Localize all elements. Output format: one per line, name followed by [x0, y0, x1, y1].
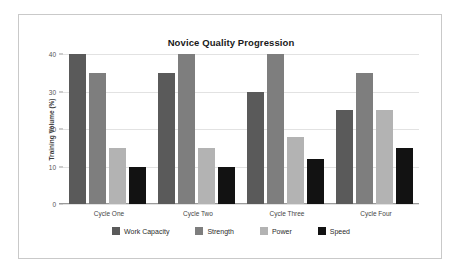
legend-swatch [318, 227, 326, 235]
x-tick-label: Cycle One [69, 210, 149, 217]
legend-swatch [260, 227, 268, 235]
y-tick-label: 20 [49, 126, 56, 133]
plot-area: 010203040 Cycle OneCycle TwoCycle ThreeC… [63, 54, 419, 204]
chart-title: Novice Quality Progression [19, 37, 443, 48]
y-tick-label: 0 [52, 201, 56, 208]
bar[interactable] [307, 159, 324, 204]
bar-group: Cycle Three [247, 54, 327, 204]
x-tick-label: Cycle Three [247, 210, 327, 217]
y-tick-mark [59, 166, 63, 167]
y-tick-mark [59, 129, 63, 130]
bar[interactable] [89, 73, 106, 204]
legend-item[interactable]: Speed [318, 227, 350, 235]
bar[interactable] [109, 148, 126, 204]
legend-swatch [195, 227, 203, 235]
legend-item[interactable]: Power [260, 227, 292, 235]
legend-label: Strength [207, 228, 233, 235]
legend-swatch [112, 227, 120, 235]
legend-label: Speed [330, 228, 350, 235]
y-tick-mark [59, 204, 63, 205]
chart-legend: Work CapacityStrengthPowerSpeed [19, 227, 443, 235]
y-tick-label: 10 [49, 163, 56, 170]
bar-group: Cycle Four [336, 54, 416, 204]
gridline [63, 204, 419, 205]
legend-item[interactable]: Strength [195, 227, 233, 235]
bar[interactable] [69, 54, 86, 204]
x-tick-label: Cycle Two [158, 210, 238, 217]
y-tick-mark [59, 91, 63, 92]
chart-figure: Novice Quality Progression Training Volu… [0, 0, 460, 273]
bar[interactable] [376, 110, 393, 204]
y-tick-label: 30 [49, 88, 56, 95]
bar-group: Cycle Two [158, 54, 238, 204]
bar-group: Cycle One [69, 54, 149, 204]
legend-label: Power [272, 228, 292, 235]
bar[interactable] [218, 167, 235, 205]
legend-label: Work Capacity [124, 228, 169, 235]
legend-item[interactable]: Work Capacity [112, 227, 169, 235]
bar[interactable] [129, 167, 146, 205]
bar[interactable] [198, 148, 215, 204]
chart-frame: Novice Quality Progression Training Volu… [18, 14, 442, 259]
y-tick-label: 40 [49, 51, 56, 58]
bar[interactable] [356, 73, 373, 204]
bar[interactable] [336, 110, 353, 204]
bar[interactable] [267, 54, 284, 204]
bar[interactable] [287, 137, 304, 205]
bar[interactable] [178, 54, 195, 204]
bar[interactable] [396, 148, 413, 204]
y-tick-mark [59, 54, 63, 55]
bar[interactable] [247, 92, 264, 205]
bar[interactable] [158, 73, 175, 204]
x-tick-label: Cycle Four [336, 210, 416, 217]
